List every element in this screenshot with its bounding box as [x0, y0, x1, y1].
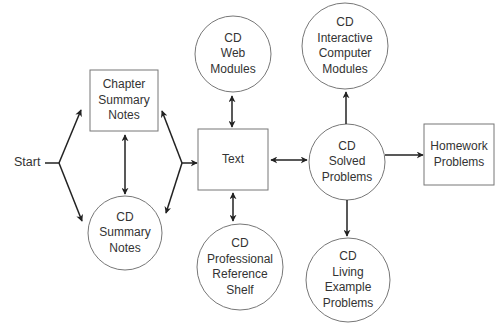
label-line: Living [332, 265, 363, 281]
cd-living-example-problems-label: CD Living Example Problems [306, 238, 390, 322]
label-line: Problems [322, 170, 373, 186]
cd-solved-problems-label: CD Solved Problems [309, 124, 385, 200]
label-line: Modules [210, 62, 255, 78]
label-line: CD [336, 15, 353, 31]
cd-interactive-computer-modules-label: CD Interactive Computer Modules [302, 3, 388, 89]
label-line: Computer [319, 46, 372, 62]
label-line: Problems [323, 296, 374, 312]
label-line: Example [325, 280, 372, 296]
label-line: Shelf [226, 283, 253, 299]
label-line: Interactive [317, 31, 372, 47]
label-line: Text [222, 152, 244, 168]
label-line: Chapter [103, 77, 146, 93]
label-line: Summary [99, 225, 150, 241]
chapter-summary-notes-label: Chapter Summary Notes [90, 70, 158, 131]
cd-professional-reference-shelf-label: CD Professional Reference Shelf [197, 224, 283, 310]
label-line: Problems [434, 155, 485, 171]
homework-problems-label: Homework Problems [424, 124, 494, 185]
label-line: Notes [109, 241, 140, 257]
label-line: CD [338, 139, 355, 155]
text-label: Text [198, 129, 268, 190]
label-line: Homework [430, 139, 487, 155]
label-line: CD [116, 210, 133, 226]
start-fork-arrows [45, 110, 82, 221]
cd-summary-notes-label: CD Summary Notes [88, 196, 162, 270]
label-line: Solved [329, 154, 366, 170]
start-label: Start [14, 155, 40, 169]
label-line: Professional [207, 252, 273, 268]
label-line: Summary [98, 93, 149, 109]
label-line: CD [224, 31, 241, 47]
label-line: Reference [212, 267, 267, 283]
label-line: Notes [108, 108, 139, 124]
cd-web-modules-label: CD Web Modules [195, 16, 271, 92]
label-line: Web [221, 46, 245, 62]
label-line: CD [231, 236, 248, 252]
summary-to-text-fork-arrows [162, 111, 197, 213]
label-line: Modules [322, 62, 367, 78]
label-line: CD [339, 249, 356, 265]
